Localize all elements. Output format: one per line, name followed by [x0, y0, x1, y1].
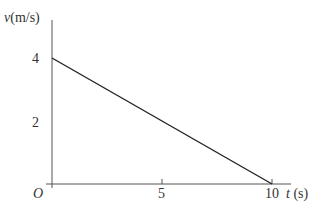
x-tick-label-10: 10	[265, 186, 279, 201]
y-tick-label-4: 4	[32, 51, 39, 66]
y-axis-label: v(m/s)	[4, 10, 40, 26]
x-axis-label: t (s)	[286, 186, 309, 202]
origin-label: O	[33, 186, 43, 201]
x-tick-label-5: 5	[158, 186, 165, 201]
velocity-time-graph: v(m/s) 4 2 O 5 10 t (s)	[0, 0, 327, 210]
y-tick-label-2: 2	[32, 115, 39, 130]
velocity-line	[52, 58, 272, 184]
